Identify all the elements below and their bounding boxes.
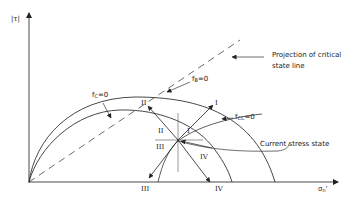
projection-label-line1: Projection of critical [272, 52, 341, 59]
fcc-label: fCC=0 [235, 114, 255, 121]
projection-label-line2: state line [272, 63, 305, 70]
region-ii-arrow-label: II [141, 100, 147, 107]
y-axis-label: |τ| [11, 16, 20, 23]
fc-label-eq: =0 [98, 91, 108, 99]
arrow-region-i [178, 105, 213, 140]
iv-arrow-into-point [181, 141, 212, 148]
region-i-label: I [187, 128, 190, 135]
fb-label: fB=0 [192, 76, 208, 83]
fb-label-eq: =0 [198, 75, 208, 83]
x-axis-label-prime: ' [326, 185, 328, 193]
fb-curve [29, 97, 275, 182]
diagram-canvas [0, 0, 355, 201]
x-axis-label: σn' [318, 186, 328, 193]
region-ii-label: II [158, 128, 164, 135]
current-state-label: Current stress state [260, 141, 329, 148]
region-iii-arrow-label: III [141, 186, 149, 193]
region-iv-arrow-label: IV [215, 186, 223, 193]
fc-label: fC=0 [92, 92, 108, 99]
region-iv-label: IV [200, 154, 208, 161]
region-i-arrow-label: I [215, 100, 218, 107]
critical-state-line [29, 40, 240, 182]
region-iii-label: III [156, 144, 164, 151]
fcc-label-eq: =0 [244, 113, 254, 121]
